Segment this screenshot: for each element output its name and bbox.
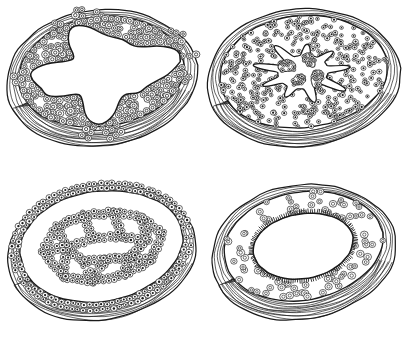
histology-figure <box>0 0 404 348</box>
panel-branched-stellate-lumen-section <box>202 0 404 174</box>
panel-wide-irregular-lumen-section <box>0 0 202 174</box>
panel-reticular-network-section <box>0 174 202 348</box>
panel-3-drawing <box>0 174 202 348</box>
panel-1-drawing <box>0 0 202 174</box>
panel-2-drawing <box>202 0 404 174</box>
panel-ciliated-oval-lumen-section <box>202 174 404 348</box>
panel-4-drawing <box>202 174 404 348</box>
